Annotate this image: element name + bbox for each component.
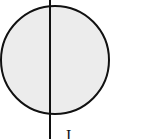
gray-circle (1, 6, 109, 114)
clipped-caption-text: I . (66, 128, 79, 139)
diagram-canvas (0, 0, 148, 139)
